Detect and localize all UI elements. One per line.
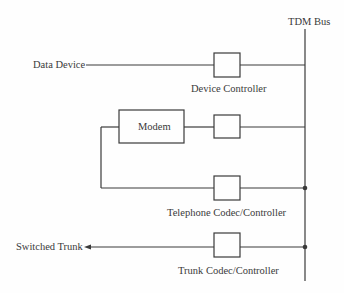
- tdm-bus-diagram: TDM Bus Data Device Device Controller Mo…: [0, 0, 344, 293]
- data-device-label: Data Device: [33, 59, 85, 71]
- device-controller-label: Device Controller: [191, 83, 267, 95]
- junction-dot-icon: [303, 245, 308, 250]
- modem-controller-box: [214, 115, 240, 138]
- switched-trunk-label: Switched Trunk: [16, 241, 83, 253]
- arrow-left-icon: [84, 245, 91, 250]
- trunk-codec-label: Trunk Codec/Controller: [178, 265, 279, 277]
- device-controller-box: [214, 53, 240, 77]
- tdm-bus-label: TDM Bus: [288, 16, 330, 28]
- modem-label: Modem: [138, 121, 171, 133]
- trunk-codec-box: [214, 233, 240, 257]
- telephone-codec-label: Telephone Codec/Controller: [167, 207, 286, 219]
- junction-dot-icon: [303, 186, 308, 191]
- telephone-codec-box: [214, 176, 240, 200]
